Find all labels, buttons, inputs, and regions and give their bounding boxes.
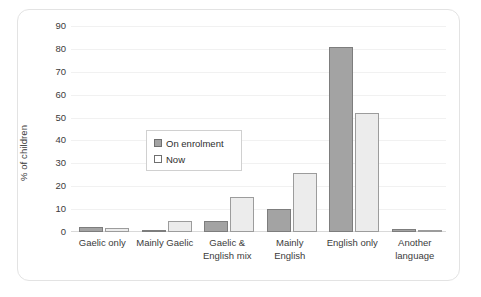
bar-now[interactable] <box>168 221 192 232</box>
legend-swatch-icon <box>154 139 162 147</box>
bar-on-enrolment[interactable] <box>267 209 291 232</box>
bar-group <box>134 26 197 232</box>
x-tick-label-line: English only <box>319 236 385 249</box>
x-tick-label: Mainly English <box>257 236 323 262</box>
x-tick-label: Gaelic only <box>69 236 135 249</box>
y-tick-label: 40 <box>26 135 66 145</box>
x-tick-label-line: English <box>257 249 323 262</box>
legend-label: On enrolment <box>166 138 224 149</box>
legend-item-now[interactable]: Now <box>154 152 241 166</box>
x-tick-label: Gaelic & English mix <box>194 236 260 262</box>
bar-on-enrolment[interactable] <box>204 221 228 232</box>
legend-item-on-enrolment[interactable]: On enrolment <box>154 136 241 150</box>
bar-now[interactable] <box>355 113 379 232</box>
bar-group <box>196 26 259 232</box>
y-tick-label: 0 <box>26 227 66 237</box>
bar-now[interactable] <box>418 230 442 232</box>
bar-now[interactable] <box>293 173 317 233</box>
y-tick-label: 80 <box>26 44 66 54</box>
x-tick-label: Mainly Gaelic <box>132 236 198 249</box>
x-tick-label: English only <box>319 236 385 249</box>
y-tick-label: 30 <box>26 158 66 168</box>
bar-group <box>384 26 447 232</box>
bar-group <box>71 26 134 232</box>
legend-label: Now <box>166 154 185 165</box>
x-tick-label-line: Another <box>382 236 448 249</box>
bar-group <box>259 26 322 232</box>
bar-on-enrolment[interactable] <box>329 47 353 232</box>
x-tick-label-line: Gaelic only <box>69 236 135 249</box>
chart-legend: On enrolment Now <box>146 130 242 171</box>
bar-group <box>321 26 384 232</box>
y-tick-label: 50 <box>26 113 66 123</box>
x-tick-label-line: Mainly <box>257 236 323 249</box>
x-tick-label-line: Mainly Gaelic <box>132 236 198 249</box>
y-tick-label: 20 <box>26 181 66 191</box>
y-tick-label: 90 <box>26 21 66 31</box>
y-tick-label: 60 <box>26 90 66 100</box>
bar-on-enrolment[interactable] <box>79 227 103 232</box>
y-tick-label: 10 <box>26 204 66 214</box>
y-tick-label: 70 <box>26 67 66 77</box>
x-tick-label-line: language <box>382 249 448 262</box>
bar-on-enrolment[interactable] <box>392 229 416 232</box>
x-axis-tick-labels: Gaelic only Mainly Gaelic Gaelic & Engli… <box>71 236 446 282</box>
chart-figure: % of children 90 80 70 60 50 40 30 20 10… <box>0 0 481 297</box>
y-axis-tick-labels: 90 80 70 60 50 40 30 20 10 0 <box>26 26 66 232</box>
x-tick-label-line: Gaelic & <box>194 236 260 249</box>
bar-now[interactable] <box>105 228 129 232</box>
plot-area <box>71 26 446 232</box>
x-tick-label-line: English mix <box>194 249 260 262</box>
x-tick-label: Another language <box>382 236 448 262</box>
bar-now[interactable] <box>230 197 254 232</box>
legend-swatch-icon <box>154 155 162 163</box>
bar-on-enrolment[interactable] <box>142 230 166 232</box>
